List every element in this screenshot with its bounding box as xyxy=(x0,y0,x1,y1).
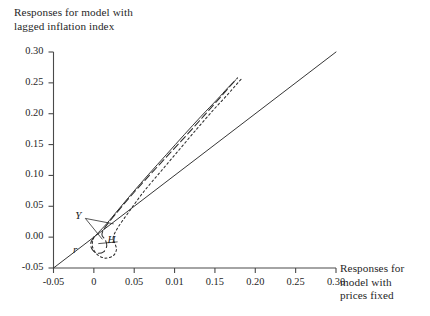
x-tick-label: 0.25 xyxy=(276,276,316,287)
curve-label-Y: Y xyxy=(75,209,81,221)
y-tick-label: 0.20 xyxy=(10,107,44,118)
data-series xyxy=(54,52,337,268)
curve-label-r: r xyxy=(73,243,77,255)
x-tick-label: 0.20 xyxy=(235,276,275,287)
series-H xyxy=(92,78,242,258)
y-tick-label: -0.05 xyxy=(10,261,44,272)
x-tick-label: 0.30 xyxy=(316,276,356,287)
x-tick-label: 0.01 xyxy=(155,276,195,287)
series-Y xyxy=(91,78,238,253)
plot-area xyxy=(0,0,430,316)
y-tick-label: 0.30 xyxy=(10,45,44,56)
curve-label-H: H xyxy=(108,233,116,245)
x-tick-label: 0.15 xyxy=(195,276,235,287)
y-tick-label: 0.25 xyxy=(10,76,44,87)
x-tick-label: 0.05 xyxy=(114,276,154,287)
y-tick-label: 0.00 xyxy=(10,230,44,241)
y-tick-label: 0.15 xyxy=(10,138,44,149)
y-tick-label: 0.05 xyxy=(10,199,44,210)
y-tick-label: 0.10 xyxy=(10,168,44,179)
x-tick-label: 0 xyxy=(74,276,114,287)
series-r xyxy=(94,80,236,237)
x-tick-label: -0.05 xyxy=(34,276,74,287)
chart-figure: Responses for model with lagged inflatio… xyxy=(0,0,430,316)
